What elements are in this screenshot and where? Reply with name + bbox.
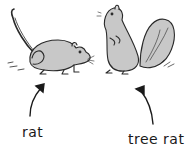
rat-label: rat	[22, 124, 43, 140]
squirrel-drawing-icon	[97, 5, 174, 74]
arrow-to-tree-rat-icon	[136, 86, 153, 124]
arrow-to-rat-icon	[30, 84, 44, 116]
tree-rat-label: tree rat	[128, 131, 184, 147]
rat-drawing-icon	[8, 9, 94, 74]
